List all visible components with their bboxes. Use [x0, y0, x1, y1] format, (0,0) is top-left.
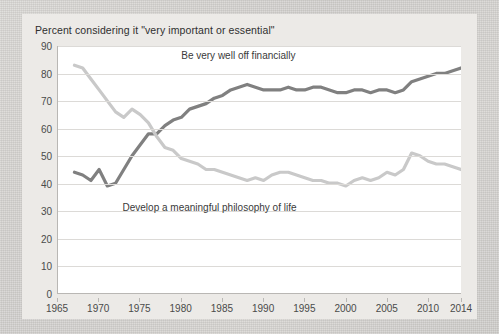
y-tick-label-20: 20 [41, 233, 52, 244]
gridline-10 [58, 266, 461, 267]
screenshot-frame: Percent considering it "very important o… [0, 0, 499, 334]
y-tick-label-30: 30 [41, 206, 52, 217]
x-tick-1965 [57, 298, 58, 302]
gridline-40 [58, 184, 461, 185]
x-tick-label-1975: 1975 [128, 303, 150, 314]
x-tick-label-1965: 1965 [46, 303, 68, 314]
x-tick-1990 [263, 298, 264, 302]
gridline-90 [58, 46, 461, 47]
x-axis-labels: 1965197019751980198519901995200020052010… [57, 298, 461, 314]
y-tick-label-60: 60 [41, 123, 52, 134]
gridline-70 [58, 101, 461, 102]
x-tick-label-2014: 2014 [450, 303, 472, 314]
x-tick-1995 [304, 298, 305, 302]
gridline-50 [58, 156, 461, 157]
y-tick-label-80: 80 [41, 68, 52, 79]
y-tick-label-90: 90 [41, 41, 52, 52]
label-develop-a-meaningful-philosophy-of-life: Develop a meaningful philosophy of life [123, 202, 297, 213]
label-be-very-well-off-financially: Be very well off financially [181, 50, 295, 61]
chart-title: Percent considering it "very important o… [35, 24, 275, 36]
x-tick-label-1980: 1980 [170, 303, 192, 314]
y-tick-label-50: 50 [41, 151, 52, 162]
series-line-philosophy [74, 65, 461, 186]
x-tick-label-1985: 1985 [211, 303, 233, 314]
gridline-20 [58, 239, 461, 240]
y-tick-label-0: 0 [46, 289, 52, 300]
x-tick-2005 [387, 298, 388, 302]
x-tick-label-1990: 1990 [252, 303, 274, 314]
x-tick-label-1970: 1970 [87, 303, 109, 314]
chart-svg [58, 46, 461, 293]
x-tick-2010 [428, 298, 429, 302]
x-tick-1970 [98, 298, 99, 302]
x-tick-1985 [222, 298, 223, 302]
plot-area [57, 46, 461, 294]
y-tick-label-10: 10 [41, 261, 52, 272]
x-tick-1980 [181, 298, 182, 302]
x-tick-1975 [139, 298, 140, 302]
x-tick-label-2000: 2000 [334, 303, 356, 314]
gridline-80 [58, 74, 461, 75]
y-axis-labels: 0102030405060708090 [27, 46, 52, 294]
y-tick-label-70: 70 [41, 96, 52, 107]
x-tick-label-2005: 2005 [376, 303, 398, 314]
x-tick-2000 [346, 298, 347, 302]
gridline-60 [58, 129, 461, 130]
x-tick-2014 [461, 298, 462, 302]
y-tick-label-40: 40 [41, 178, 52, 189]
x-tick-label-2010: 2010 [417, 303, 439, 314]
x-tick-label-1995: 1995 [293, 303, 315, 314]
